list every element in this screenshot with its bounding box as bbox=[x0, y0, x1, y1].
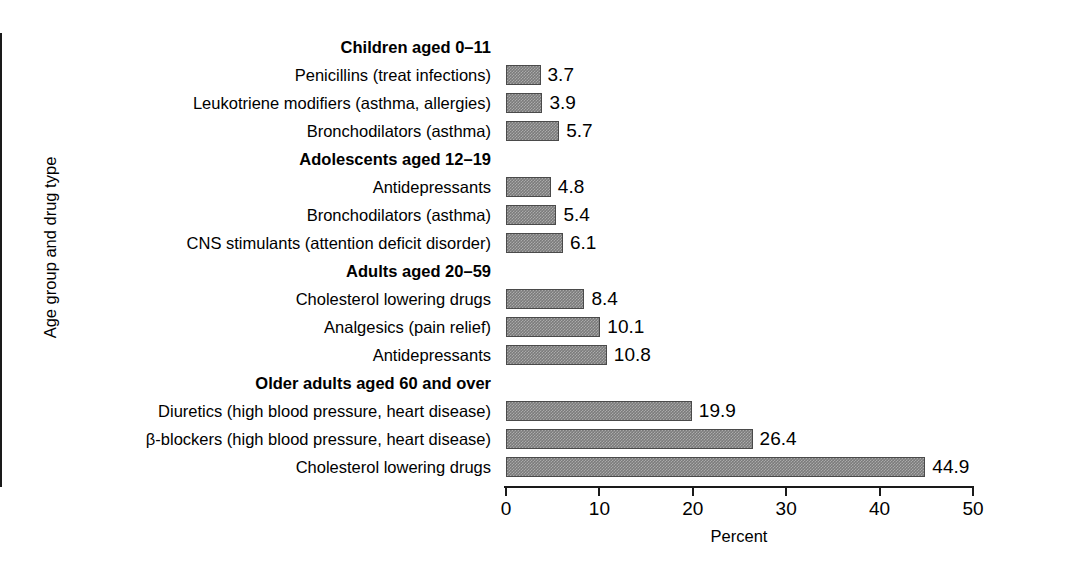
bar-row: Penicillins (treat infections)3.7 bbox=[0, 61, 1066, 89]
bar-row-label: Analgesics (pain relief) bbox=[0, 313, 497, 341]
bar-group-header-label: Older adults aged 60 and over bbox=[0, 369, 497, 397]
x-axis-tick bbox=[972, 486, 974, 496]
bar-group-header-label: Adults aged 20–59 bbox=[0, 257, 497, 285]
bar bbox=[506, 205, 556, 225]
bar-row-label: Cholesterol lowering drugs bbox=[0, 453, 497, 481]
bar bbox=[506, 177, 551, 197]
bar-row-label: CNS stimulants (attention deficit disord… bbox=[0, 229, 497, 257]
bar-row: Bronchodilators (asthma)5.4 bbox=[0, 201, 1066, 229]
bar-row-label: Penicillins (treat infections) bbox=[0, 61, 497, 89]
bar-row: Bronchodilators (asthma)5.7 bbox=[0, 117, 1066, 145]
bar bbox=[506, 401, 692, 421]
bar-group-header-label: Adolescents aged 12–19 bbox=[0, 145, 497, 173]
bar-group-header: Adolescents aged 12–19 bbox=[0, 145, 1066, 173]
bar-row: Cholesterol lowering drugs44.9 bbox=[0, 453, 1066, 481]
bar-value-label: 3.9 bbox=[542, 89, 575, 117]
bar bbox=[506, 457, 925, 477]
bar-value-label: 5.4 bbox=[556, 201, 589, 229]
x-axis-tick-label: 30 bbox=[756, 498, 816, 520]
x-axis-tick bbox=[598, 486, 600, 496]
bar bbox=[506, 345, 607, 365]
bar-row: Cholesterol lowering drugs8.4 bbox=[0, 285, 1066, 313]
bar bbox=[506, 317, 600, 337]
bar-value-label: 19.9 bbox=[692, 397, 736, 425]
bar-row-label: Bronchodilators (asthma) bbox=[0, 117, 497, 145]
bar bbox=[506, 233, 563, 253]
x-axis-line bbox=[504, 486, 974, 488]
bar-value-label: 6.1 bbox=[563, 229, 596, 257]
x-axis-tick-label: 0 bbox=[476, 498, 536, 520]
bar-group-header: Adults aged 20–59 bbox=[0, 257, 1066, 285]
bar-row: CNS stimulants (attention deficit disord… bbox=[0, 229, 1066, 257]
bar-value-label: 8.4 bbox=[584, 285, 617, 313]
bar-row: Leukotriene modifiers (asthma, allergies… bbox=[0, 89, 1066, 117]
x-axis-title: Percent bbox=[504, 527, 974, 546]
bar bbox=[506, 289, 584, 309]
x-axis-tick-label: 50 bbox=[943, 498, 1003, 520]
bar-row: Antidepressants4.8 bbox=[0, 173, 1066, 201]
x-axis-tick bbox=[879, 486, 881, 496]
bar-row: β-blockers (high blood pressure, heart d… bbox=[0, 425, 1066, 453]
bar bbox=[506, 429, 753, 449]
bar-value-label: 44.9 bbox=[925, 453, 969, 481]
bar bbox=[506, 121, 559, 141]
bar-row-label: Bronchodilators (asthma) bbox=[0, 201, 497, 229]
bar-row-label: Antidepressants bbox=[0, 341, 497, 369]
x-axis-tick-label: 40 bbox=[850, 498, 910, 520]
bar-row: Antidepressants10.8 bbox=[0, 341, 1066, 369]
bar-row-label: Diuretics (high blood pressure, heart di… bbox=[0, 397, 497, 425]
bar-row-label: Antidepressants bbox=[0, 173, 497, 201]
bar-row: Diuretics (high blood pressure, heart di… bbox=[0, 397, 1066, 425]
bar-value-label: 26.4 bbox=[753, 425, 797, 453]
bar-group-header: Older adults aged 60 and over bbox=[0, 369, 1066, 397]
bar-row-label: β-blockers (high blood pressure, heart d… bbox=[0, 425, 497, 453]
bar bbox=[506, 65, 541, 85]
bar-row-label: Leukotriene modifiers (asthma, allergies… bbox=[0, 89, 497, 117]
bar-row: Analgesics (pain relief)10.1 bbox=[0, 313, 1066, 341]
x-axis-tick-label: 10 bbox=[569, 498, 629, 520]
x-axis-tick bbox=[785, 486, 787, 496]
x-axis-tick bbox=[505, 486, 507, 496]
bar-value-label: 10.1 bbox=[600, 313, 644, 341]
bar-value-label: 10.8 bbox=[607, 341, 651, 369]
bar-chart: Age group and drug type Children aged 0–… bbox=[0, 0, 1066, 572]
bar-value-label: 3.7 bbox=[541, 61, 574, 89]
bar bbox=[506, 93, 542, 113]
bar-value-label: 4.8 bbox=[551, 173, 584, 201]
bar-group-header-label: Children aged 0–11 bbox=[0, 33, 497, 61]
bar-value-label: 5.7 bbox=[559, 117, 592, 145]
bar-group-header: Children aged 0–11 bbox=[0, 33, 1066, 61]
bar-row-label: Cholesterol lowering drugs bbox=[0, 285, 497, 313]
x-axis-tick-label: 20 bbox=[663, 498, 723, 520]
x-axis-tick bbox=[692, 486, 694, 496]
